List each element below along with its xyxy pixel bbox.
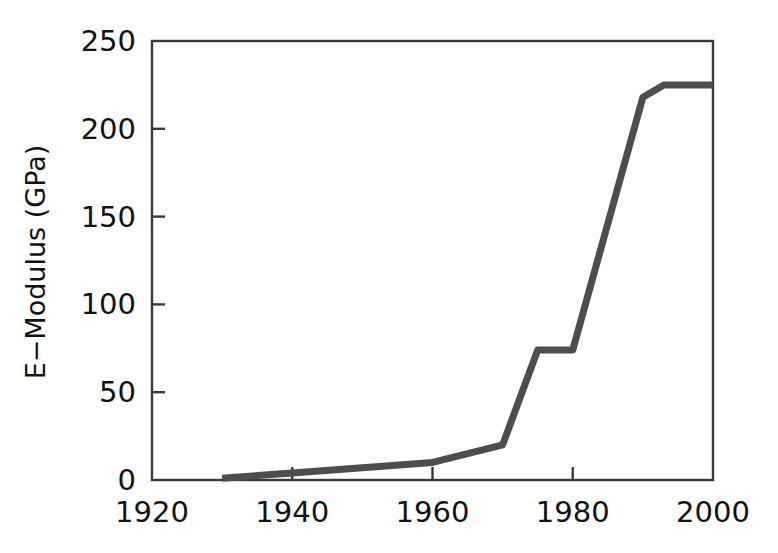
y-tick-label: 100 xyxy=(81,287,136,321)
y-tick-label: 250 xyxy=(81,24,136,58)
y-tick-label: 200 xyxy=(81,112,136,146)
x-tick-label: 1960 xyxy=(396,495,470,529)
x-tick-label: 1920 xyxy=(115,495,189,529)
x-tick-label: 1940 xyxy=(255,495,329,529)
chart-svg: 050100150200250 19201940196019802000 E−M… xyxy=(0,0,778,553)
y-tick-label: 0 xyxy=(118,463,136,497)
x-tick-label: 1980 xyxy=(536,495,610,529)
x-tick-label: 2000 xyxy=(676,495,750,529)
chart-figure: 050100150200250 19201940196019802000 E−M… xyxy=(0,0,778,553)
y-tick-label: 150 xyxy=(81,200,136,234)
y-axis-title: E−Modulus (GPa) xyxy=(20,145,51,380)
y-tick-label: 50 xyxy=(99,375,136,409)
